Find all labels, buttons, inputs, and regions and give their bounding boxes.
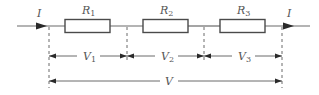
voltage-label-total: V (165, 75, 174, 88)
resistor-r3 (220, 20, 265, 33)
current-label-in: I (36, 7, 42, 20)
v-total-arrow-right-icon (275, 79, 282, 84)
series-circuit-diagram: I I R1 R2 R3 V1 V2 V3 V (0, 0, 319, 95)
voltage-label-v3: V3 (238, 50, 251, 64)
v1-arrow-right-icon (120, 54, 127, 59)
resistor-label-r3: R3 (236, 4, 250, 18)
v2-arrow-left-icon (127, 54, 134, 59)
v-total-arrow-left-icon (49, 79, 56, 84)
resistor-label-r1: R1 (81, 4, 95, 18)
resistor-r1 (65, 20, 110, 33)
voltage-label-v1: V1 (83, 50, 96, 64)
v2-arrow-right-icon (197, 54, 204, 59)
v3-arrow-left-icon (204, 54, 211, 59)
current-arrow-in-icon (36, 23, 47, 30)
resistor-r2 (143, 20, 188, 33)
voltage-label-v2: V2 (161, 50, 174, 64)
v3-arrow-right-icon (275, 54, 282, 59)
current-label-out: I (286, 7, 292, 20)
v1-arrow-left-icon (49, 54, 56, 59)
resistor-label-r2: R2 (159, 4, 173, 18)
current-arrow-out-icon (283, 23, 294, 30)
